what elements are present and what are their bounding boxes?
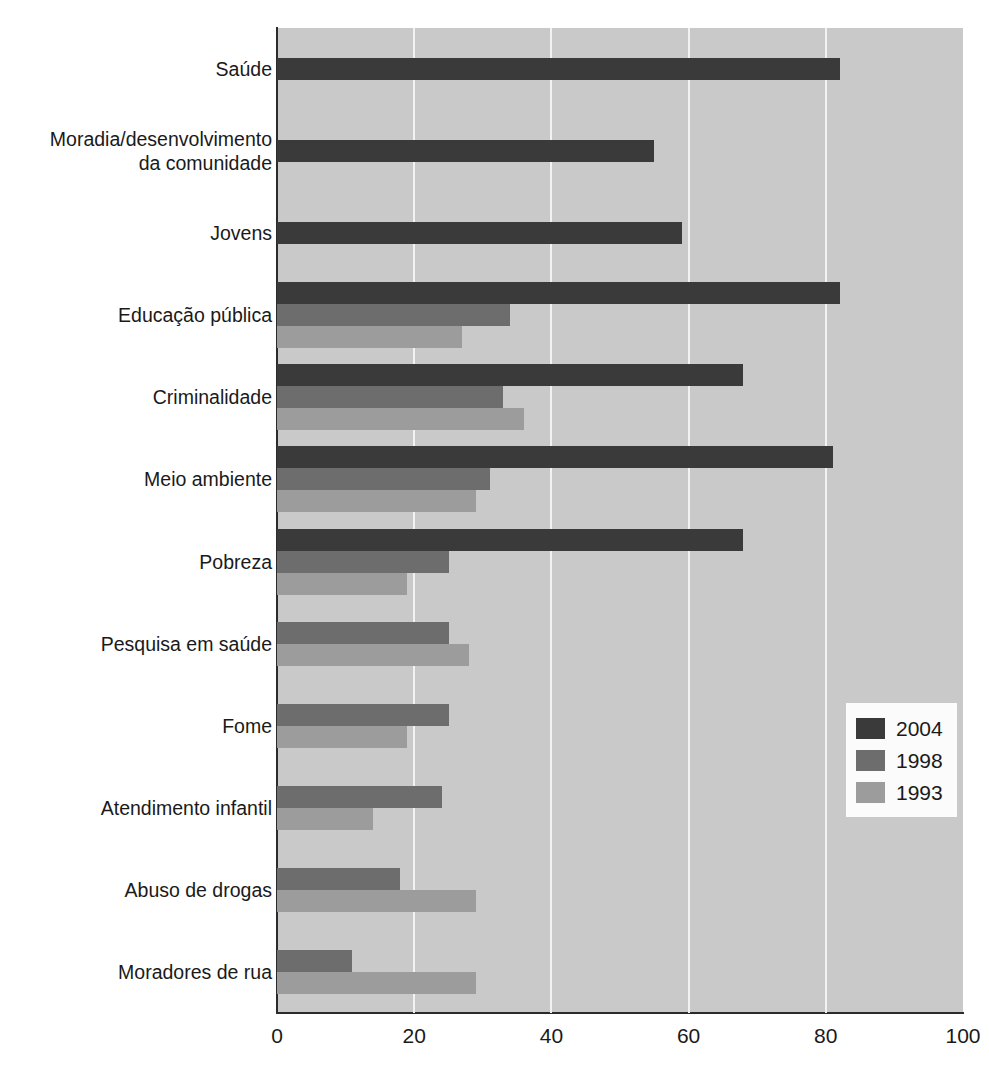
x-tick-label: 60	[677, 1022, 700, 1050]
x-tick-label: 20	[403, 1022, 426, 1050]
legend-swatch-icon	[856, 750, 885, 771]
category-label: Abuso de drogas	[7, 878, 272, 902]
bar-1993	[277, 490, 476, 512]
bar-1998	[277, 704, 449, 726]
bar-1998	[277, 551, 449, 573]
category-label: Educação pública	[7, 303, 272, 327]
plot-area	[277, 28, 963, 1013]
bar-1998	[277, 386, 503, 408]
x-tick-label: 0	[271, 1022, 283, 1050]
legend-swatch-icon	[856, 782, 885, 803]
x-tick-label: 100	[945, 1022, 980, 1050]
bar-2004	[277, 282, 840, 304]
gridline-80	[825, 28, 827, 1013]
category-label: Jovens	[7, 221, 272, 245]
gridline-20	[413, 28, 415, 1013]
category-label: Atendimento infantil	[7, 796, 272, 820]
category-label: Moradia/desenvolvimento da comunidade	[7, 127, 272, 175]
x-axis-tick-labels: 020406080100	[0, 1022, 989, 1056]
bar-1998	[277, 950, 352, 972]
legend: 200419981993	[846, 703, 957, 817]
bar-1998	[277, 622, 449, 644]
gridline-60	[688, 28, 690, 1013]
legend-label: 1993	[896, 782, 943, 803]
bar-2004	[277, 364, 743, 386]
y-axis-line	[276, 27, 278, 1014]
category-axis-labels: SaúdeMoradia/desenvolvimento da comunida…	[0, 0, 272, 1014]
x-tick-label: 80	[814, 1022, 837, 1050]
x-tick-label: 40	[540, 1022, 563, 1050]
category-label: Pobreza	[7, 550, 272, 574]
bar-1993	[277, 644, 469, 666]
bar-1998	[277, 468, 490, 490]
gridline-100	[962, 28, 964, 1013]
category-label: Moradores de rua	[7, 960, 272, 984]
bar-1993	[277, 972, 476, 994]
legend-swatch-icon	[856, 718, 885, 739]
legend-label: 1998	[896, 750, 943, 771]
bar-2004	[277, 222, 682, 244]
bar-1993	[277, 726, 407, 748]
bar-2004	[277, 446, 833, 468]
bar-1993	[277, 326, 462, 348]
x-axis-line	[276, 1012, 964, 1014]
gridline-40	[550, 28, 552, 1013]
bar-2004	[277, 140, 654, 162]
category-label: Criminalidade	[7, 385, 272, 409]
bar-2004	[277, 529, 743, 551]
legend-label: 2004	[896, 718, 943, 739]
category-label: Meio ambiente	[7, 467, 272, 491]
bar-1993	[277, 408, 524, 430]
category-label: Fome	[7, 714, 272, 738]
bar-2004	[277, 58, 840, 80]
bar-1993	[277, 808, 373, 830]
bar-1998	[277, 868, 400, 890]
bar-1993	[277, 890, 476, 912]
bar-1998	[277, 304, 510, 326]
legend-item-1993: 1993	[856, 776, 943, 808]
category-label: Pesquisa em saúde	[7, 632, 272, 656]
category-label: Saúde	[7, 57, 272, 81]
legend-item-2004: 2004	[856, 712, 943, 744]
bar-1998	[277, 786, 442, 808]
legend-item-1998: 1998	[856, 744, 943, 776]
bar-1993	[277, 573, 407, 595]
bar-chart: SaúdeMoradia/desenvolvimento da comunida…	[0, 0, 989, 1078]
